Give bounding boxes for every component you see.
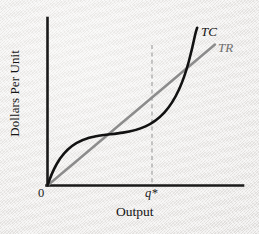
- x-tick-label-qstar: q*: [145, 187, 158, 200]
- series-label-tc: TC: [201, 25, 217, 38]
- total-revenue-line: [48, 45, 216, 186]
- origin-label: 0: [38, 187, 44, 200]
- chart-figure: Dollars Per Unit Output 0 q* TC TR: [0, 0, 259, 234]
- total-cost-curve: [48, 28, 198, 186]
- y-axis-label: Dollars Per Unit: [8, 50, 21, 137]
- x-axis-label: Output: [116, 205, 154, 219]
- series-label-tr: TR: [218, 41, 233, 54]
